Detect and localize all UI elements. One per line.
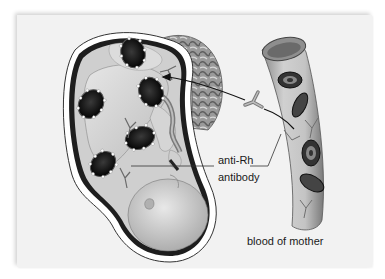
rh-disease-illustration [0, 0, 385, 279]
maternal-rbc [278, 72, 302, 88]
maternal-rbc [302, 140, 320, 166]
blood-of-mother-label: blood of mother [247, 235, 323, 248]
free-antibody [245, 92, 262, 107]
anti-rh-label: anti-Rh [218, 154, 253, 167]
antibody-label: antibody [218, 171, 260, 184]
maternal-blood-vessel [260, 34, 327, 230]
